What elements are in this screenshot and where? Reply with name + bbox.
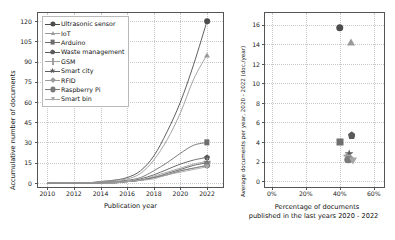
left-chart-x-axis-label: Publication year [37,202,224,210]
right-chart-plot-area [264,12,385,188]
legend-marker-wrap [51,78,55,82]
x-tick-label: 2012 [62,190,86,197]
right-scatter-chart-panel: Average documents per year, 2020 - 2022 … [232,0,395,240]
legend-marker-key [45,47,60,56]
y-tick-label: 8 [240,100,260,107]
legend-item-arduino[interactable]: Arduino [45,38,125,47]
legend-item-label: IoT [60,30,71,37]
star-marker-icon [49,68,55,74]
legend-item-gsm[interactable]: GSM [45,57,125,66]
legend-marker-key [45,66,60,75]
marker-shape [204,140,209,145]
y-tick-label: 75 [10,78,32,85]
y-tick-label: 60 [10,99,32,106]
marker-shape [204,164,210,169]
legend-marker-key [45,19,60,28]
square-marker-icon [204,140,209,145]
legend-item-label: RFID [60,77,76,84]
legend-item-label: GSM [60,58,75,65]
gridline-horizontal [265,83,384,84]
y-tick-label: 2 [240,158,260,165]
left-chart-plot-area: Ultrasonic sensorIoTArduinoWaste managem… [37,12,224,188]
right-chart-x-axis-label-line1: Percentage of documents [242,203,392,211]
left-line-chart-panel: Accumulative number of documents 0153045… [0,0,232,240]
y-tick-label: 14 [240,41,260,48]
triangle-down-marker-icon [51,97,55,101]
y-tick-label: 120 [10,18,32,25]
circle-marker-icon [336,24,344,32]
y-tick-label: 15 [10,159,32,166]
legend-marker-wrap [49,68,55,74]
legend-marker-key [45,38,60,47]
gridline-horizontal [265,162,384,163]
gridline-horizontal [265,103,384,104]
x-tick-label: 2010 [35,190,59,197]
legend-item-iot[interactable]: IoT [45,28,125,37]
gridline-horizontal [265,181,384,182]
figure-root: Accumulative number of documents 0153045… [0,0,395,240]
legend-marker-key [45,94,60,103]
square-marker-icon [50,40,55,45]
marker-shape [336,24,344,32]
y-tick-label: 0 [240,178,260,185]
marker-shape [337,139,344,146]
legend-marker-key [45,76,60,85]
legend-item-raspberry-pi[interactable]: Raspberry Pi [45,85,125,94]
x-tick-label: 2014 [89,190,113,197]
x-tick-label: 2016 [115,190,139,197]
triangle-up-marker-icon [51,31,55,35]
gridline-horizontal [265,142,384,143]
y-tick-label: 16 [240,21,260,28]
legend-marker-wrap [50,49,55,54]
x-tick-label: 60% [362,190,386,197]
legend-item-label: Raspberry Pi [60,86,100,93]
triangle-down-marker-icon [349,157,357,164]
legend-marker-wrap [50,58,56,64]
circle-marker-icon [50,87,55,92]
y-tick-label: 0 [10,180,32,187]
legend-item-label: Smart city [60,67,93,74]
legend-item-ultrasonic-sensor[interactable]: Ultrasonic sensor [45,19,125,28]
plus-marker-icon [50,58,56,64]
triangle-up-marker-icon [347,39,355,46]
legend-item-rfid[interactable]: RFID [45,75,125,84]
right-chart-x-axis-label-line2: published in the last years 2020 - 2022 [232,212,395,220]
triangle-up-marker-icon [204,52,210,57]
legend-marker-wrap [51,31,55,35]
marker-shape [349,157,357,164]
pentagon-marker-icon [348,131,356,139]
y-tick-label: 45 [10,119,32,126]
y-tick-label: 12 [240,61,260,68]
legend-item-label: Waste management [60,48,125,55]
chart-legend: Ultrasonic sensorIoTArduinoWaste managem… [42,16,129,107]
marker-shape [204,18,210,24]
x-tick-label: 2018 [142,190,166,197]
gridline-horizontal [265,25,384,26]
left-chart-y-axis-label: Accumulative number of documents [9,70,17,190]
triangle-down-marker-icon [204,164,210,169]
legend-item-label: Arduino [60,39,85,46]
legend-marker-wrap [51,97,55,101]
pentagon-marker-icon [50,49,55,54]
legend-marker-wrap [50,87,55,92]
diamond-marker-icon [50,77,56,83]
legend-item-label: Ultrasonic sensor [60,20,115,27]
circle-marker-icon [50,21,55,26]
legend-item-smart-bin[interactable]: Smart bin [45,94,125,103]
legend-marker-key [45,29,60,38]
legend-marker-key [45,85,60,94]
y-tick-label: 4 [240,139,260,146]
legend-item-smart-city[interactable]: Smart city [45,66,125,75]
marker-shape [347,39,355,46]
gridline-horizontal [265,64,384,65]
legend-item-waste-management[interactable]: Waste management [45,47,125,56]
gridline-horizontal [265,122,384,123]
legend-item-label: Smart bin [60,95,92,102]
legend-marker-key [45,57,60,66]
y-tick-label: 6 [240,119,260,126]
square-marker-icon [337,139,344,146]
y-tick-label: 30 [10,139,32,146]
x-tick-label: 20% [294,190,318,197]
line-series [47,161,207,183]
gridline-horizontal [265,44,384,45]
